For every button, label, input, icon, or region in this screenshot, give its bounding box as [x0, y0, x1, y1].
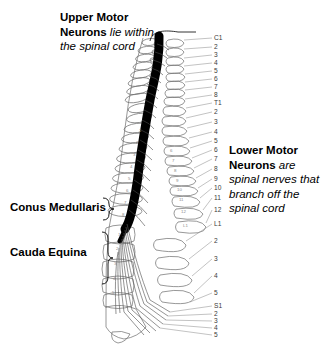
lumbar-body-number-3: 3: [114, 261, 116, 266]
segment-label-8: 8: [214, 165, 218, 172]
segment-label-10: 10: [214, 184, 221, 191]
segment-label-8: 8: [214, 91, 218, 98]
lower-motor-line2-italic: are: [279, 159, 296, 171]
segment-label-5: 5: [214, 289, 218, 296]
lumbar-body-number-4: 4: [113, 276, 115, 281]
segment-label-T1: T1: [214, 99, 222, 106]
segment-label-S1: S1: [214, 302, 222, 309]
segment-label-6: 6: [214, 75, 218, 82]
vertebral-body-number-1: 1: [139, 128, 141, 133]
segment-label-2: 2: [214, 237, 218, 244]
lower-motor-neurons-annotation: Lower Motor Neurons are spinal nerves th…: [229, 143, 321, 216]
spinous-process-number-8: 8: [174, 168, 176, 173]
spinous-process-number-7: 7: [172, 158, 174, 163]
upper-motor-line1: Upper Motor: [60, 11, 128, 23]
vertebral-body-number-3: 3: [133, 152, 135, 157]
upper-motor-line3-italic: the spinal cord: [60, 40, 135, 52]
segment-label-4: 4: [214, 272, 218, 279]
lower-motor-line5-italic: spinal cord: [229, 202, 285, 214]
spinous-process-number-10: 10: [177, 187, 182, 192]
vertebral-body-number-7: 7: [124, 200, 126, 205]
segment-label-4: 4: [214, 324, 218, 331]
segment-label-5: 5: [214, 67, 218, 74]
segment-label-4: 4: [214, 59, 218, 66]
lumbar-body-number-1: 1: [118, 232, 120, 237]
segment-label-3: 3: [214, 317, 218, 324]
segment-label-9: 9: [214, 175, 218, 182]
segment-label-7: 7: [214, 83, 218, 90]
upper-motor-neurons-annotation: Upper Motor Neurons lie within the spina…: [60, 10, 200, 54]
cauda-equina-label: Cauda Equina: [10, 246, 87, 258]
segment-label-5: 5: [214, 331, 218, 338]
segment-label-12: 12: [214, 206, 221, 213]
segment-label-2: 2: [214, 108, 218, 115]
segment-label-6: 6: [214, 146, 218, 153]
lower-motor-line3-italic: spinal nerves that: [229, 173, 319, 185]
lower-motor-line4-italic: branch off the: [229, 188, 299, 200]
segment-label-C1: C1: [214, 34, 222, 41]
vertebral-body-number-6: 6: [126, 188, 128, 193]
lower-motor-line2-bold: Neurons: [229, 159, 276, 171]
segment-label-5: 5: [214, 137, 218, 144]
segment-label-3: 3: [214, 118, 218, 125]
spinous-process-number-L1: L1: [183, 223, 188, 228]
segment-label-3: 3: [214, 255, 218, 262]
segment-label-2: 2: [214, 43, 218, 50]
segment-label-4: 4: [214, 128, 218, 135]
spinous-process-number-11: 11: [179, 197, 184, 202]
vertebral-body-number-5: 5: [128, 176, 130, 181]
segment-label-L1: L1: [214, 220, 221, 227]
segment-label-3: 3: [214, 51, 218, 58]
spinous-process-number-9: 9: [176, 178, 178, 183]
spinal-diagram: Upper Motor Neurons lie within the spina…: [0, 0, 322, 350]
segment-label-7: 7: [214, 155, 218, 162]
segment-label-11: 11: [214, 194, 221, 201]
spinous-processes: [154, 39, 207, 304]
conus-medullaris-label: Conus Medullaris: [10, 201, 106, 213]
vertebral-body-number-4: 4: [130, 164, 132, 169]
lumbar-body-number-2: 2: [116, 246, 118, 251]
lumbar-body-number-5: 5: [112, 290, 114, 295]
vertebral-body-number-2: 2: [136, 140, 138, 145]
upper-motor-line2-italic: lie within: [110, 26, 154, 38]
segment-label-2: 2: [214, 310, 218, 317]
upper-motor-line2-bold: Neurons: [60, 26, 107, 38]
lower-motor-line1: Lower Motor: [229, 144, 298, 156]
spinous-process-number-12: 12: [181, 209, 186, 214]
vertebral-body-number-8: 8: [122, 212, 124, 217]
spinous-process-number-6: 6: [170, 148, 172, 153]
cauda-equina-fibers: [115, 224, 170, 335]
